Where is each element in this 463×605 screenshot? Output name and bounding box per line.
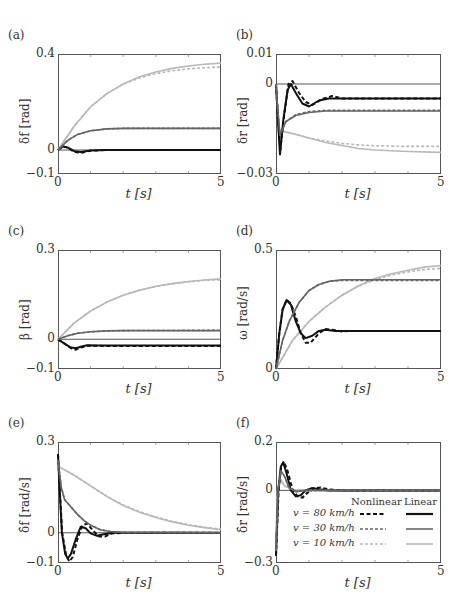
legend-swatches bbox=[0, 0, 463, 605]
